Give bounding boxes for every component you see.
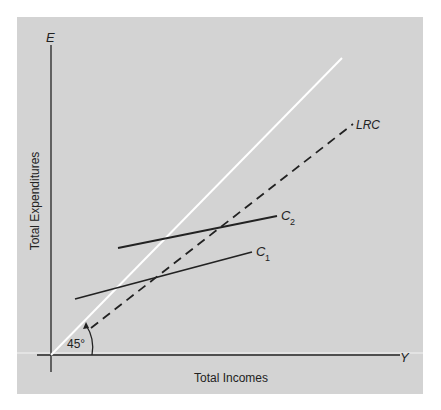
lrc-label: LRC [356,118,380,132]
y-axis-symbol: E [46,30,55,45]
consumption-function-diagram: E Y Total Expenditures Total Incomes 45°… [0,0,441,410]
c2-line [118,216,277,248]
c1-subscript: 1 [265,253,270,263]
x-axis-symbol: Y [400,350,410,365]
x-axis-label: Total Incomes [194,371,268,385]
lrc-line [91,124,353,328]
y-axis-label: Total Expenditures [28,152,42,251]
arc-arrowhead-icon [83,322,89,329]
c2-subscript: 2 [290,217,295,227]
c1-line [75,252,252,299]
angle-label: 45° [67,337,85,351]
angle-arc [86,325,93,355]
line-45-degree [51,58,342,355]
